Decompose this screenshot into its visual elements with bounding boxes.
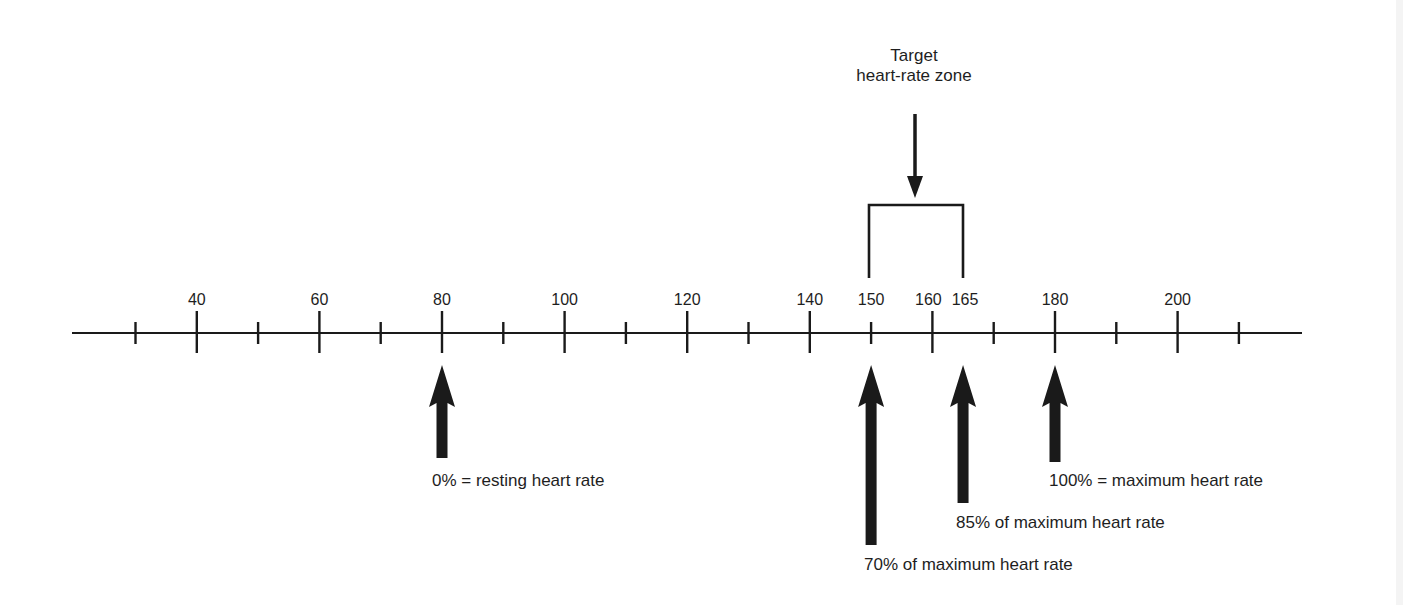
title-line-2: heart-rate zone	[856, 66, 971, 86]
tick-label-180: 180	[1042, 292, 1069, 308]
title-line-1: Target	[856, 46, 971, 66]
tick-label-120: 120	[674, 292, 701, 308]
heart-rate-zone-diagram: Target heart-rate zone 40608010012014015…	[0, 0, 1403, 605]
up-arrow-icon	[429, 365, 455, 458]
marker-label-70pct: 70% of maximum heart rate	[864, 556, 1073, 573]
tick-label-165: 165	[952, 292, 979, 308]
up-arrow-icon	[950, 365, 976, 503]
marker-label-100pct: 100% = maximum heart rate	[1049, 472, 1263, 489]
target-zone-title: Target heart-rate zone	[856, 46, 971, 86]
target-zone-arrow-icon	[907, 114, 923, 198]
tick-label-140: 140	[796, 292, 823, 308]
tick-label-150: 150	[858, 292, 885, 308]
diagram-graphics	[0, 0, 1403, 605]
tick-label-200: 200	[1164, 292, 1191, 308]
up-arrow-icon	[1042, 365, 1068, 462]
tick-label-40: 40	[188, 292, 206, 308]
marker-label-85pct: 85% of maximum heart rate	[956, 514, 1165, 531]
up-arrow-icon	[858, 365, 884, 545]
tick-label-160: 160	[915, 292, 942, 308]
tick-label-80: 80	[433, 292, 451, 308]
tick-label-60: 60	[310, 292, 328, 308]
tick-label-100: 100	[551, 292, 578, 308]
marker-label-resting: 0% = resting heart rate	[432, 472, 604, 489]
target-zone-bracket	[869, 205, 963, 278]
